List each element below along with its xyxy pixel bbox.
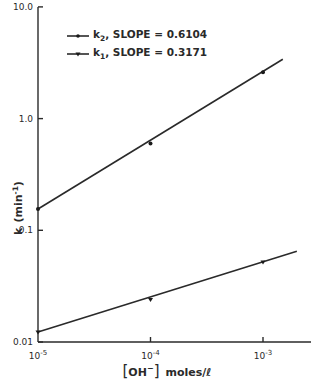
triangle-marker-icon <box>148 298 153 302</box>
x-tick-label: 10-5 <box>29 349 47 361</box>
dot-marker-icon <box>149 141 153 145</box>
y-tick-label: 1.0 <box>19 114 34 124</box>
data-series <box>36 59 297 334</box>
legend-item-k1: k1, SLOPE = 0.3171 <box>67 46 207 61</box>
fit-line-k2 <box>38 59 283 209</box>
y-tick-label: 10.0 <box>13 2 33 12</box>
x-tick-label: 10-4 <box>141 349 160 361</box>
series-k2 <box>36 59 283 211</box>
dot-marker-icon <box>261 70 265 74</box>
chart-canvas: 10.01.00.10.01 10-510-410-3 k2, SLOPE = … <box>0 0 314 383</box>
x-axis-title: [OH−]moles/ℓ <box>123 362 212 380</box>
x-axis-ticks: 10-510-410-3 <box>29 337 272 361</box>
legend-label-k1: k1, SLOPE = 0.3171 <box>93 46 207 61</box>
x-tick-label: 10-3 <box>254 349 272 361</box>
log-log-chart: 10.01.00.10.01 10-510-410-3 k2, SLOPE = … <box>0 0 314 383</box>
series-k1 <box>36 251 297 334</box>
legend-item-k2: k2, SLOPE = 0.6104 <box>67 28 207 43</box>
legend: k2, SLOPE = 0.6104 k1, SLOPE = 0.3171 <box>67 28 207 61</box>
dot-marker-icon <box>36 207 40 211</box>
triangle-marker-icon <box>36 330 41 334</box>
fit-line-k1 <box>38 251 297 332</box>
dot-marker-icon <box>76 34 80 38</box>
y-tick-label: 0.01 <box>13 337 33 347</box>
legend-label-k2: k2, SLOPE = 0.6104 <box>93 28 207 43</box>
